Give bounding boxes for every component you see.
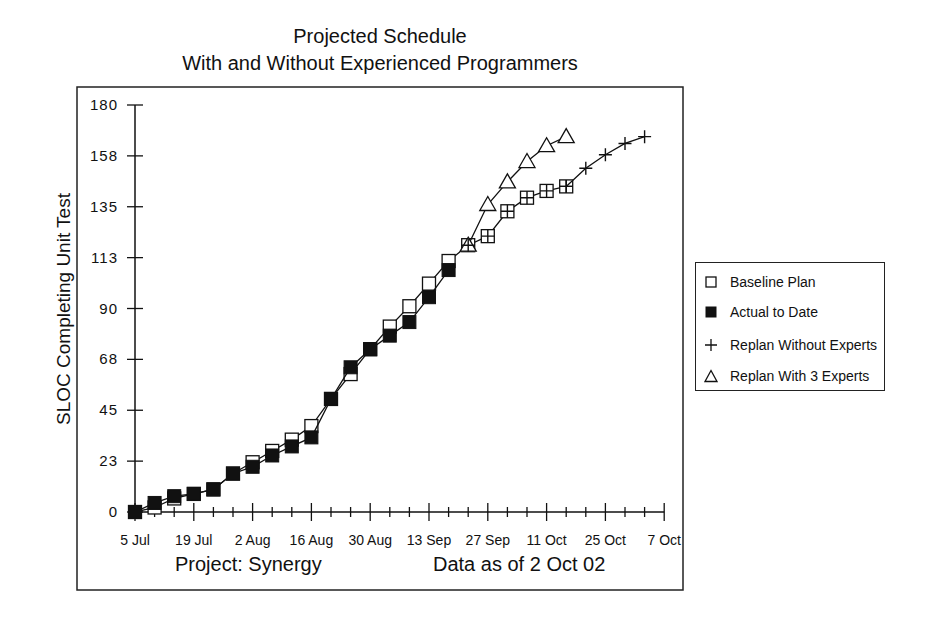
x-tick-label: 2 Aug <box>235 532 271 548</box>
filled-square-marker <box>187 487 200 500</box>
legend-item-actual: Actual to Date <box>704 302 818 322</box>
x-tick-label: 27 Sep <box>466 532 511 548</box>
plus-marker <box>619 137 632 150</box>
y-tick-label: 90 <box>99 300 118 317</box>
project-label: Project: Synergy <box>175 553 322 576</box>
filled-square-marker <box>285 440 298 453</box>
chart-title-line2: With and Without Experienced Programmers <box>180 52 580 75</box>
y-tick-label: 158 <box>90 147 118 164</box>
series-line <box>566 137 644 187</box>
x-tick-label: 11 Oct <box>526 532 566 548</box>
y-tick-label: 180 <box>90 96 118 113</box>
x-tick-label: 7 Oct <box>647 532 681 548</box>
legend-label: Replan With 3 Experts <box>730 368 869 384</box>
x-tick-label: 5 Jul <box>120 532 150 548</box>
y-tick-label: 23 <box>99 452 118 469</box>
filled-square-marker <box>344 361 357 374</box>
filled-square-marker <box>266 449 279 462</box>
filled-square-marker <box>423 291 436 304</box>
filled-square-marker <box>305 431 318 444</box>
series-line <box>135 186 566 512</box>
y-axis-label: SLOC Completing Unit Test <box>53 159 75 459</box>
y-tick-label: 135 <box>90 198 118 215</box>
y-tick-label: 68 <box>99 350 118 367</box>
series-layer <box>129 129 652 519</box>
hollow-square-marker <box>423 277 436 290</box>
x-tick-label: 13 Sep <box>407 532 452 548</box>
legend-label: Replan Without Experts <box>730 337 877 353</box>
filled-square-marker <box>168 490 181 503</box>
filled-square-marker <box>207 483 220 496</box>
plus-icon <box>704 338 718 352</box>
plus-marker <box>638 130 651 143</box>
hollow-square-marker <box>403 300 416 313</box>
hollow-triangle-marker <box>558 129 574 143</box>
hollow-triangle-marker <box>519 154 535 168</box>
series-line <box>135 270 449 512</box>
x-tick-label: 19 Jul <box>175 532 212 548</box>
legend-item-replan-with: Replan With 3 Experts <box>704 366 869 386</box>
series-baseline-plan <box>129 180 573 519</box>
hollow-triangle-marker <box>539 138 555 152</box>
hollow-triangle-icon <box>704 369 718 383</box>
x-tick-label: 25 Oct <box>585 532 626 548</box>
filled-square-marker <box>383 329 396 342</box>
filled-square-marker <box>246 460 259 473</box>
series-replan-with-3-experts <box>460 129 574 252</box>
filled-square-marker <box>129 506 142 519</box>
x-tick-label: 30 Aug <box>348 532 392 548</box>
chart-title-line1: Projected Schedule <box>180 25 580 48</box>
hollow-square-icon <box>704 275 718 289</box>
filled-square-marker <box>325 392 338 405</box>
legend-label: Baseline Plan <box>730 274 816 290</box>
filled-square-marker <box>148 496 161 509</box>
legend-item-replan-without: Replan Without Experts <box>704 335 877 355</box>
x-tick-label: 16 Aug <box>290 532 334 548</box>
filled-square-marker <box>227 467 240 480</box>
y-tick-label: 0 <box>109 503 118 520</box>
filled-square-marker <box>403 316 416 329</box>
data-date-label: Data as of 2 Oct 02 <box>433 553 605 576</box>
filled-square-marker <box>442 264 455 277</box>
legend: Baseline Plan Actual to Date Replan With… <box>695 262 885 391</box>
legend-item-baseline: Baseline Plan <box>704 272 816 292</box>
y-tick-label: 45 <box>99 401 118 418</box>
filled-square-icon <box>704 305 718 319</box>
plus-marker <box>599 148 612 161</box>
y-tick-label: 113 <box>91 249 118 266</box>
series-replan-without-experts <box>560 130 651 193</box>
filled-square-marker <box>364 343 377 356</box>
legend-label: Actual to Date <box>730 304 818 320</box>
